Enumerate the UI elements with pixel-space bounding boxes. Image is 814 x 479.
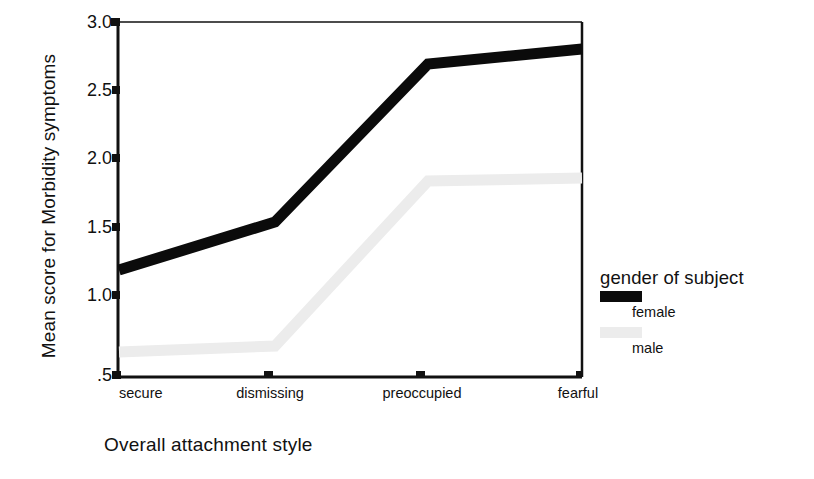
legend-title: gender of subject	[600, 268, 810, 287]
legend-swatch-male	[600, 327, 642, 338]
legend-item-male[interactable]: male	[600, 323, 810, 359]
x-tick-label-dismissing: dismissing	[236, 386, 304, 401]
x-tick-label-preoccupied: preoccupied	[383, 386, 462, 401]
x-tick-label-secure: secure	[119, 386, 163, 401]
legend-item-female[interactable]: female	[600, 287, 810, 323]
legend-label-male: male	[632, 341, 663, 356]
series-line-female	[119, 49, 582, 270]
legend-swatch-female	[600, 291, 642, 302]
x-axis-title: Overall attachment style	[104, 434, 313, 456]
y-tick-label: 1.5	[66, 218, 112, 236]
axis-frame	[118, 22, 582, 377]
y-axis-tick-labels: 3.0 2.5 2.0 1.5 1.0 .5	[62, 0, 112, 479]
y-tick-label: 1.0	[66, 286, 112, 304]
legend: gender of subject female male	[600, 268, 810, 359]
y-axis-title: Mean score for Morbidity symptoms	[38, 26, 60, 386]
series-line-male	[119, 178, 582, 352]
x-tick-marks	[264, 371, 583, 376]
plot-area	[0, 0, 814, 479]
legend-label-female: female	[632, 305, 676, 320]
y-tick-label: 2.5	[66, 81, 112, 99]
x-tick-label-fearful: fearful	[558, 386, 598, 401]
y-tick-label: 3.0	[66, 13, 112, 31]
chart-container: Mean score for Morbidity symptoms 3.0 2.…	[0, 0, 814, 479]
y-tick-label: 2.0	[66, 149, 112, 167]
y-tick-label: .5	[66, 366, 112, 384]
